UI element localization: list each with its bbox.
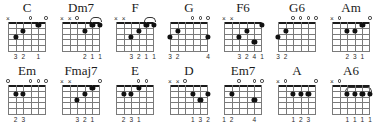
string-markers	[278, 78, 316, 85]
finger-dot	[198, 97, 203, 102]
fret-line	[170, 39, 208, 40]
string-line	[193, 85, 194, 114]
finger-number: 1	[35, 52, 42, 62]
finger-dot	[291, 91, 296, 96]
finger-dot	[129, 34, 134, 39]
finger-number: 1	[135, 115, 142, 125]
open-string-icon	[336, 15, 343, 22]
string-markers	[332, 78, 370, 85]
chord-diagram: Em7124	[216, 63, 270, 126]
open-string-icon	[74, 15, 81, 22]
finger-dot	[352, 91, 357, 96]
fret-line	[332, 97, 370, 98]
nut	[332, 85, 370, 87]
fret-line	[170, 34, 208, 35]
fret-line	[170, 45, 208, 46]
muted-string-icon	[66, 78, 73, 85]
open-string-icon	[189, 15, 196, 22]
chord-diagram: E231	[108, 63, 162, 126]
chord-diagram: Em23	[0, 63, 54, 126]
fret-line	[62, 45, 100, 46]
fret-line	[224, 28, 262, 29]
open-string-icon	[197, 15, 204, 22]
finger-number: 2	[282, 52, 289, 62]
fret-line	[62, 34, 100, 35]
chord-diagram: F3211	[108, 0, 162, 63]
chord-row: C321Dm7211F3211G324F63241G632Am231	[0, 0, 378, 63]
finger-number: 3	[20, 115, 27, 125]
open-string-icon	[336, 78, 343, 85]
string-markers	[224, 78, 262, 85]
open-string-icon	[27, 78, 34, 85]
chord-name: A	[292, 63, 301, 78]
muted-string-icon	[275, 78, 282, 85]
fretboard-grid	[224, 85, 262, 114]
muted-string-icon	[228, 15, 235, 22]
string-line	[315, 22, 316, 51]
string-line	[293, 22, 294, 51]
chord-diagram: A123	[270, 63, 324, 126]
finger-dot	[136, 85, 141, 90]
fingering-numbers: 231	[116, 115, 154, 125]
finger-number: 2	[174, 52, 181, 62]
string-line	[340, 85, 341, 114]
muted-string-icon	[66, 15, 73, 22]
string-line	[332, 85, 333, 114]
fingering-numbers: 1111	[332, 115, 370, 125]
chord-name: Em7	[231, 63, 256, 78]
string-line	[45, 22, 46, 51]
fretboard-grid	[116, 85, 154, 114]
chord-diagram: Fmaj7321	[54, 63, 108, 126]
chord-name: Dm7	[68, 0, 94, 15]
finger-dot	[21, 28, 26, 33]
open-string-icon	[43, 15, 50, 22]
string-line	[286, 22, 287, 51]
finger-dot	[144, 22, 149, 27]
string-line	[23, 22, 24, 51]
finger-dot	[283, 28, 288, 33]
chord-name: Fmaj7	[64, 63, 97, 78]
fretboard-grid	[116, 22, 154, 51]
finger-dot	[367, 91, 372, 96]
finger-dot	[275, 34, 280, 39]
string-line	[207, 85, 208, 114]
fret-line	[116, 39, 154, 40]
string-line	[193, 22, 194, 51]
finger-number: 4	[205, 52, 212, 62]
open-string-icon	[43, 78, 50, 85]
chord-diagram: G632	[270, 0, 324, 63]
fret-line	[62, 108, 100, 109]
open-string-icon	[27, 15, 34, 22]
string-line	[146, 85, 147, 114]
finger-number: 1	[151, 52, 158, 62]
string-markers	[62, 78, 100, 85]
finger-dot	[121, 91, 126, 96]
string-markers	[224, 15, 262, 22]
string-line	[301, 85, 302, 114]
finger-number: 2	[228, 115, 235, 125]
fret-line	[116, 34, 154, 35]
finger-dot	[190, 91, 195, 96]
finger-number: 2	[344, 52, 351, 62]
open-string-icon	[313, 78, 320, 85]
finger-dot	[229, 91, 234, 96]
finger-number: 1	[89, 115, 96, 125]
finger-number: 4	[251, 52, 258, 62]
string-line	[62, 85, 63, 114]
string-markers	[116, 78, 154, 85]
fret-line	[224, 102, 262, 103]
finger-dot	[167, 34, 172, 39]
fretboard-grid	[278, 22, 316, 51]
finger-number: 1	[97, 52, 104, 62]
open-string-icon	[5, 78, 12, 85]
fingering-numbers: 32	[278, 52, 316, 62]
string-line	[31, 22, 32, 51]
string-line	[347, 22, 348, 51]
chord-name: Am	[341, 0, 361, 15]
string-line	[185, 22, 186, 51]
chord-diagram: F63241	[216, 0, 270, 63]
string-line	[355, 22, 356, 51]
chord-diagram: G324	[162, 0, 216, 63]
fingering-numbers: 23	[8, 115, 46, 125]
finger-number: 1	[143, 52, 150, 62]
